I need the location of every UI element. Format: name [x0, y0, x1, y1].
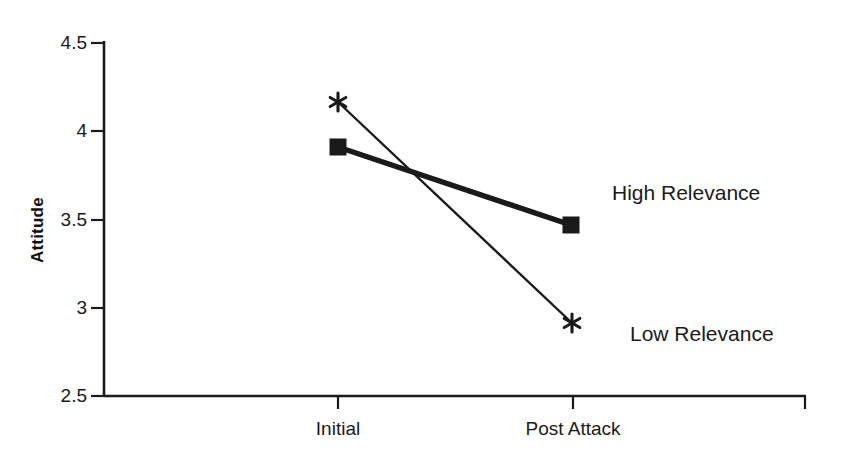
- series-high-relevance: [330, 139, 580, 234]
- y-tick-label-3: 3: [30, 298, 87, 317]
- y-tick-label-2-5: 2.5: [30, 386, 87, 405]
- x-tick-label-post-attack: Post Attack: [503, 419, 643, 438]
- y-tick-label-4-5: 4.5: [30, 33, 87, 52]
- y-axis-title: Attitude: [28, 197, 48, 263]
- y-tick-label-3-5: 3.5: [30, 210, 87, 229]
- y-axis-ticks: [91, 43, 104, 396]
- series-label-high-relevance: High Relevance: [612, 182, 760, 203]
- line-chart-plot-area: [0, 0, 844, 452]
- high-relevance-marker-initial: [330, 139, 347, 156]
- high-relevance-marker-post-attack: [563, 217, 580, 234]
- series-low-relevance: [330, 93, 580, 332]
- y-tick-label-4: 4: [30, 121, 87, 140]
- series-label-low-relevance: Low Relevance: [630, 323, 774, 344]
- x-axis-ticks: [338, 396, 805, 409]
- chart-figure: Attitude 4.5 4 3.5 3 2.5 Initial Post At…: [0, 0, 844, 452]
- x-tick-label-initial: Initial: [268, 419, 408, 438]
